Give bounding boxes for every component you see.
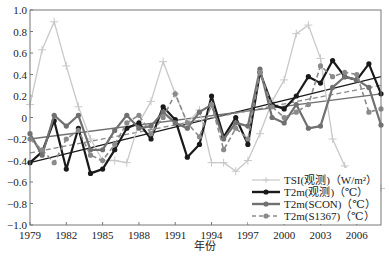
circle-marker-icon: [318, 124, 323, 129]
circle-marker-icon: [282, 106, 287, 111]
x-tick-label: 1997: [237, 229, 260, 241]
x-tick-label: 2003: [309, 229, 332, 241]
circle-marker-icon: [197, 142, 202, 147]
circle-marker-icon: [263, 213, 268, 218]
plus-marker-icon: [280, 76, 288, 84]
circle-marker-icon: [64, 167, 69, 172]
circle-marker-icon: [124, 113, 129, 118]
plus-marker-icon: [208, 159, 216, 167]
y-tick-label: 0.8: [13, 26, 27, 38]
x-tick-label: 1988: [128, 229, 151, 241]
legend-label-t2m-s1367: T2m(S1367)（℃）: [284, 210, 375, 223]
circle-marker-icon: [40, 147, 45, 152]
circle-marker-icon: [197, 110, 202, 115]
circle-marker-icon: [233, 120, 238, 125]
x-tick-label: 2000: [273, 229, 296, 241]
plus-marker-icon: [159, 58, 167, 66]
circle-marker-icon: [306, 74, 311, 79]
circle-marker-icon: [269, 115, 274, 120]
legend: TSI(观测)（W/m²） T2m(观测)（℃） T2m(SCON)（℃） T2…: [248, 168, 380, 224]
circle-marker-icon: [100, 147, 105, 152]
circle-marker-icon: [100, 167, 105, 172]
x-tick-label: 1985: [92, 229, 115, 241]
circle-marker-icon: [161, 104, 166, 109]
plus-marker-icon: [74, 103, 82, 111]
circle-marker-icon: [366, 110, 371, 115]
circle-marker-icon: [173, 91, 178, 96]
plus-marker-icon: [256, 130, 264, 138]
circle-marker-icon: [221, 147, 226, 152]
y-tick-label: −0.4: [7, 155, 27, 167]
circle-marker-icon: [148, 131, 153, 136]
circle-marker-icon: [148, 124, 153, 129]
circle-marker-icon: [64, 124, 69, 129]
circle-marker-icon: [330, 85, 335, 90]
circle-marker-icon: [282, 115, 287, 120]
circle-marker-icon: [52, 160, 57, 165]
circle-marker-icon: [52, 113, 57, 118]
y-tick-label: 1.0: [13, 4, 27, 16]
circle-marker-icon: [185, 126, 190, 131]
circle-marker-icon: [245, 142, 250, 147]
y-tick-label: 0: [22, 112, 28, 124]
circle-marker-icon: [112, 128, 117, 133]
circle-marker-icon: [366, 85, 371, 90]
x-tick-label: 1991: [164, 229, 186, 241]
circle-marker-icon: [161, 115, 166, 120]
circle-marker-icon: [76, 113, 81, 118]
circle-marker-icon: [306, 102, 311, 107]
circle-marker-icon: [173, 120, 178, 125]
circle-marker-icon: [330, 58, 335, 63]
x-axis-title: 年份: [194, 239, 216, 253]
x-tick-label: 1982: [55, 229, 77, 241]
circle-marker-icon: [88, 153, 93, 158]
circle-marker-icon: [161, 110, 166, 115]
circle-marker-icon: [257, 70, 262, 75]
circle-marker-icon: [76, 128, 81, 133]
y-tick-label: 0.4: [13, 69, 27, 81]
circle-marker-icon: [354, 72, 359, 77]
plus-marker-icon: [50, 18, 58, 26]
y-tick-label: 0.2: [13, 90, 27, 102]
series-1: [27, 58, 383, 176]
circle-marker-icon: [294, 102, 299, 107]
circle-marker-icon: [294, 93, 299, 98]
line-chart: 1.00.80.60.40.20−0.2−0.4−0.6−0.8−1.0 197…: [0, 0, 389, 262]
circle-marker-icon: [185, 120, 190, 125]
plus-marker-icon: [147, 97, 155, 105]
y-tick-label: 0.6: [13, 47, 27, 59]
circle-marker-icon: [269, 104, 274, 109]
plus-marker-icon: [220, 159, 228, 167]
circle-marker-icon: [342, 70, 347, 75]
plus-marker-icon: [329, 135, 337, 143]
circle-marker-icon: [124, 120, 129, 125]
plus-marker-icon: [316, 54, 324, 62]
circle-marker-icon: [112, 142, 117, 147]
circle-marker-icon: [263, 189, 268, 194]
circle-marker-icon: [294, 110, 299, 115]
circle-marker-icon: [318, 81, 323, 86]
circle-marker-icon: [209, 102, 214, 107]
circle-marker-icon: [245, 136, 250, 141]
circle-marker-icon: [233, 115, 238, 120]
circle-marker-icon: [233, 126, 238, 131]
circle-marker-icon: [40, 153, 45, 158]
y-tick-label: −0.2: [7, 133, 27, 145]
circle-marker-icon: [366, 61, 371, 66]
circle-marker-icon: [136, 126, 141, 131]
circle-marker-icon: [263, 201, 268, 206]
circle-marker-icon: [100, 158, 105, 163]
circle-marker-icon: [330, 74, 335, 79]
circle-marker-icon: [185, 155, 190, 160]
plus-marker-icon: [62, 62, 70, 70]
plus-marker-icon: [38, 46, 46, 54]
circle-marker-icon: [306, 126, 311, 131]
x-tick-label: 1979: [19, 229, 42, 241]
y-tick-label: −0.6: [7, 176, 27, 188]
circle-marker-icon: [148, 136, 153, 141]
plus-marker-icon: [292, 30, 300, 38]
circle-marker-icon: [136, 120, 141, 125]
circle-marker-icon: [209, 93, 214, 98]
plus-marker-icon: [111, 157, 119, 165]
circle-marker-icon: [318, 63, 323, 68]
